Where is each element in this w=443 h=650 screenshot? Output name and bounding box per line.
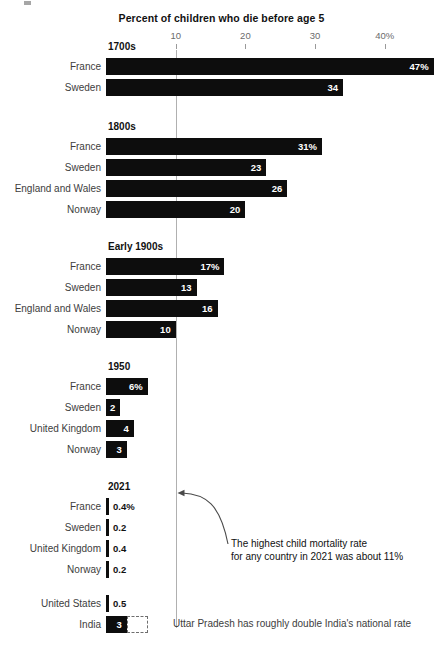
row-category-label: France bbox=[70, 258, 106, 275]
row-category-label: Sweden bbox=[65, 159, 106, 176]
row-category-label: India bbox=[79, 616, 106, 633]
axis-tick-mark bbox=[315, 44, 316, 49]
row-category-label: France bbox=[70, 498, 106, 515]
bar bbox=[106, 498, 109, 515]
chart-container: Percent of children who die before age 5… bbox=[0, 0, 443, 650]
bar-value-label: 0.2 bbox=[113, 519, 126, 536]
bar-value-label: 3 bbox=[117, 616, 122, 633]
bar-value-label: 10 bbox=[160, 321, 171, 338]
bar-value-label: 13 bbox=[181, 279, 192, 296]
row-category-label: France bbox=[70, 138, 106, 155]
bar bbox=[106, 201, 245, 218]
row-category-label: England and Wales bbox=[15, 180, 106, 197]
row-category-label: France bbox=[70, 378, 106, 395]
bar-value-label: 17% bbox=[200, 258, 219, 275]
row-category-label: Sweden bbox=[65, 399, 106, 416]
bar bbox=[106, 540, 109, 557]
group-label-1950: 1950 bbox=[108, 361, 130, 372]
group-label-2021: 2021 bbox=[108, 481, 130, 492]
bar-value-label: 4 bbox=[124, 420, 129, 437]
bar bbox=[106, 300, 218, 317]
axis-tick-label: 20 bbox=[240, 30, 251, 41]
group-label-1800s: 1800s bbox=[108, 121, 136, 132]
bar-value-label: 31% bbox=[298, 138, 317, 155]
row-category-label: Norway bbox=[67, 441, 106, 458]
row-category-label: England and Wales bbox=[15, 300, 106, 317]
bar-value-label: 6% bbox=[129, 378, 143, 395]
group-label-early-1900s: Early 1900s bbox=[108, 241, 163, 252]
annotation-highest-rate-line1: The highest child mortality rate bbox=[231, 537, 403, 550]
bar-value-label: 23 bbox=[251, 159, 262, 176]
bar-value-label: 0.4 bbox=[113, 540, 126, 557]
axis-tick-mark bbox=[385, 44, 386, 49]
bar bbox=[106, 420, 134, 437]
annotation-highest-rate-line2: for any country in 2021 was about 11% bbox=[231, 550, 403, 563]
dashed-extension-uttar-pradesh bbox=[127, 616, 148, 633]
row-category-label: Norway bbox=[67, 321, 106, 338]
axis-tick-label: 30 bbox=[310, 30, 321, 41]
bar bbox=[106, 561, 109, 578]
row-category-label: United Kingdom bbox=[30, 540, 106, 557]
axis-tick-mark bbox=[245, 44, 246, 49]
row-category-label: Sweden bbox=[65, 279, 106, 296]
bar-value-label: 34 bbox=[327, 79, 338, 96]
bar-value-label: 26 bbox=[272, 180, 283, 197]
bar-value-label: 47% bbox=[410, 58, 429, 75]
row-category-label: Sweden bbox=[65, 519, 106, 536]
row-category-label: United States bbox=[41, 595, 106, 612]
bar bbox=[106, 79, 343, 96]
bar bbox=[106, 138, 322, 155]
bar-value-label: 2 bbox=[110, 399, 115, 416]
axis-tick-mark bbox=[176, 44, 177, 49]
annotation-uttar-pradesh: Uttar Pradesh has roughly double India's… bbox=[173, 618, 411, 629]
bar-value-label: 3 bbox=[117, 441, 122, 458]
axis-tick-label: 10 bbox=[170, 30, 181, 41]
bar-value-label: 0.2 bbox=[113, 561, 126, 578]
chart-title: Percent of children who die before age 5 bbox=[0, 12, 443, 24]
bar bbox=[106, 159, 266, 176]
group-label-1700s: 1700s bbox=[108, 41, 136, 52]
bar bbox=[106, 519, 109, 536]
annotation-highest-rate: The highest child mortality rate for any… bbox=[231, 537, 403, 563]
row-category-label: United Kingdom bbox=[30, 420, 106, 437]
row-category-label: Norway bbox=[67, 561, 106, 578]
bar-value-label: 0.4% bbox=[113, 498, 135, 515]
bar-value-label: 16 bbox=[202, 300, 213, 317]
bar bbox=[106, 595, 109, 612]
row-category-label: Norway bbox=[67, 201, 106, 218]
row-category-label: Sweden bbox=[65, 79, 106, 96]
row-category-label: France bbox=[70, 58, 106, 75]
bar bbox=[106, 58, 434, 75]
crop-artifact-mark bbox=[24, 1, 31, 5]
bar-value-label: 0.5 bbox=[113, 595, 126, 612]
bar-value-label: 20 bbox=[230, 201, 241, 218]
axis-tick-label: 40% bbox=[375, 30, 394, 41]
bar bbox=[106, 180, 287, 197]
